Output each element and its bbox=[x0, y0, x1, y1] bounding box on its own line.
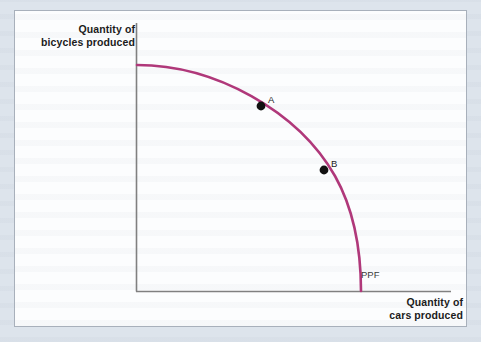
point-a-marker bbox=[257, 102, 266, 111]
x-axis-label: Quantity of cars produced bbox=[315, 296, 463, 321]
figure-panel: Quantity of bicycles produced Quantity o… bbox=[14, 10, 467, 327]
point-b-marker bbox=[320, 166, 329, 175]
point-b-label: B bbox=[331, 158, 337, 169]
x-axis-label-line2: cars produced bbox=[389, 309, 463, 321]
x-axis-label-line1: Quantity of bbox=[406, 296, 463, 308]
point-a-label: A bbox=[268, 94, 274, 105]
ppf-curve-label: PPF bbox=[361, 269, 379, 280]
y-axis-label-line1: Quantity of bbox=[78, 23, 135, 35]
ppf-curve bbox=[137, 65, 361, 291]
y-axis-label: Quantity of bicycles produced bbox=[33, 23, 135, 48]
ppf-plot bbox=[15, 11, 467, 327]
y-axis-label-line2: bicycles produced bbox=[41, 36, 135, 48]
